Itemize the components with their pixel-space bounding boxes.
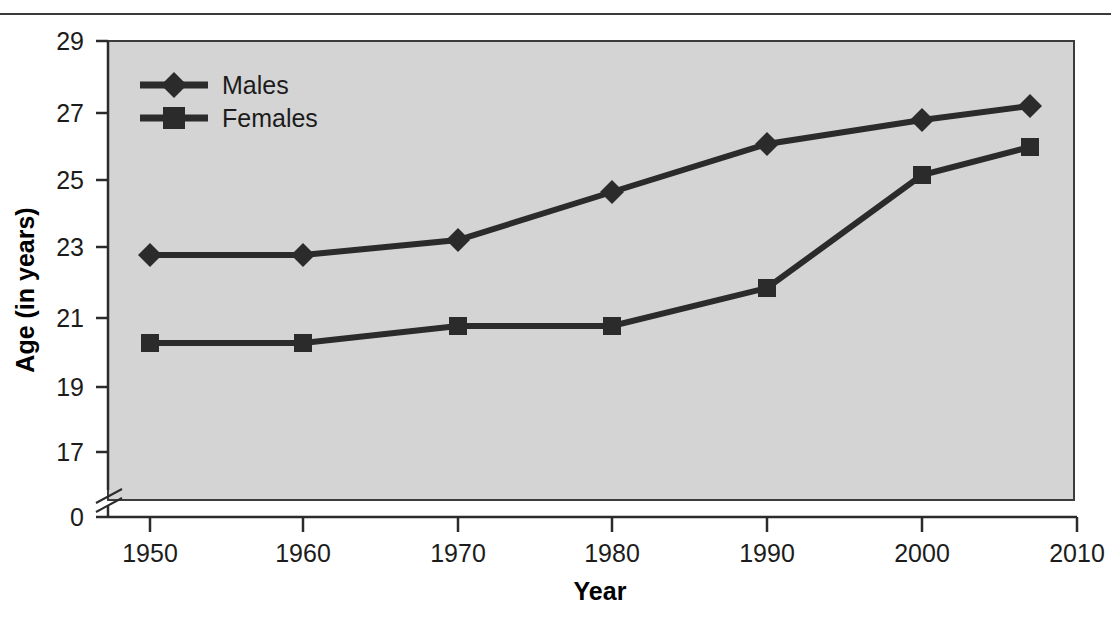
- data-point-marker: [141, 334, 159, 352]
- data-point-marker: [913, 166, 931, 184]
- y-tick-label: 25: [56, 166, 84, 194]
- x-tick-label: 1950: [122, 539, 178, 567]
- data-point-marker: [603, 317, 621, 335]
- line-chart: 29 27 25 23 21 19 17 0 1950 1960 1970 19…: [0, 0, 1111, 617]
- y-axis-title: Age (in years): [11, 207, 39, 372]
- y-tick-label: 19: [56, 373, 84, 401]
- y-tick-label: 29: [56, 27, 84, 55]
- figure-container: 29 27 25 23 21 19 17 0 1950 1960 1970 19…: [0, 0, 1111, 617]
- y-tick-label: 23: [56, 233, 84, 261]
- y-tick-label: 27: [56, 99, 84, 127]
- x-tick-label: 1970: [430, 539, 486, 567]
- y-tick-label: 17: [56, 438, 84, 466]
- legend-label-males: Males: [222, 71, 289, 99]
- data-point-marker: [449, 317, 467, 335]
- x-tick-label: 1990: [739, 539, 795, 567]
- data-point-marker: [1021, 138, 1039, 156]
- x-tick-label: 2010: [1049, 539, 1105, 567]
- x-tick-label: 1980: [584, 539, 640, 567]
- x-axis-ticks: [150, 517, 1077, 532]
- square-marker-icon: [163, 107, 185, 129]
- x-tick-label: 2000: [894, 539, 950, 567]
- data-point-marker: [294, 334, 312, 352]
- y-axis-ticks: [96, 41, 108, 517]
- x-tick-label: 1960: [275, 539, 331, 567]
- data-point-marker: [758, 279, 776, 297]
- y-tick-label: 0: [70, 503, 84, 531]
- y-tick-label: 21: [56, 304, 84, 332]
- x-axis-title: Year: [574, 577, 627, 605]
- legend-label-females: Females: [222, 104, 318, 132]
